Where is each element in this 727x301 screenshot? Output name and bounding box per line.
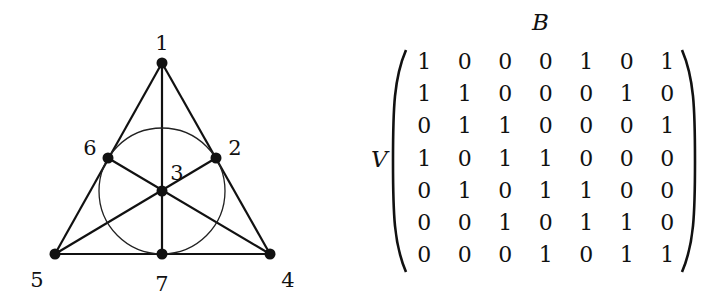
node-5 — [50, 249, 61, 260]
matrix-cell: 1 — [647, 46, 688, 78]
matrix-cell: 0 — [485, 239, 526, 271]
matrix-cell: 0 — [647, 175, 688, 207]
matrix-cell: 1 — [485, 207, 526, 239]
node-label-6: 6 — [83, 136, 96, 160]
matrix-cell: 1 — [404, 46, 445, 78]
matrix-cell: 0 — [404, 239, 445, 271]
matrix-cell: 0 — [485, 78, 526, 110]
matrix-cell: 1 — [445, 175, 486, 207]
node-label-3: 3 — [170, 161, 183, 185]
matrix-cell: 1 — [526, 143, 567, 175]
matrix-cell: 0 — [445, 239, 486, 271]
matrix-cell: 1 — [445, 110, 486, 142]
node-label-1: 1 — [155, 31, 168, 55]
matrix-grid: 1000101110001001100011011000010110000101… — [404, 46, 688, 271]
matrix-cell: 1 — [445, 78, 486, 110]
node-label-2: 2 — [228, 136, 241, 160]
node-7 — [157, 249, 168, 260]
node-4 — [265, 249, 276, 260]
matrix-cell: 0 — [607, 175, 648, 207]
node-2 — [211, 153, 222, 164]
matrix-cell: 1 — [566, 46, 607, 78]
node-1 — [157, 58, 168, 69]
matrix-cell: 1 — [485, 110, 526, 142]
matrix-cell: 1 — [566, 207, 607, 239]
matrix-cell: 0 — [526, 110, 567, 142]
matrix-cell: 0 — [647, 143, 688, 175]
matrix-cell: 0 — [404, 175, 445, 207]
matrix-cell: 0 — [607, 110, 648, 142]
matrix-cell: 1 — [647, 110, 688, 142]
matrix-cell: 1 — [404, 143, 445, 175]
matrix-cell: 1 — [647, 239, 688, 271]
node-label-7: 7 — [155, 272, 168, 296]
row-label: V — [371, 146, 388, 172]
matrix-cell: 0 — [526, 207, 567, 239]
matrix-cell: 0 — [404, 110, 445, 142]
matrix-cell: 1 — [404, 78, 445, 110]
matrix-cell: 0 — [566, 239, 607, 271]
node-label-4: 4 — [281, 268, 294, 292]
matrix-cell: 1 — [607, 207, 648, 239]
line-6-3-4 — [108, 158, 270, 254]
node-6 — [103, 153, 114, 164]
matrix-cell: 1 — [485, 143, 526, 175]
matrix-cell: 0 — [404, 207, 445, 239]
matrix-cell: 0 — [647, 207, 688, 239]
matrix-cell: 0 — [445, 207, 486, 239]
matrix-cell: 0 — [485, 175, 526, 207]
matrix-cell: 0 — [647, 78, 688, 110]
fano-plane-diagram: 1234567 — [0, 0, 340, 301]
matrix-cell: 0 — [566, 78, 607, 110]
matrix-cell: 0 — [566, 143, 607, 175]
matrix-cell: 0 — [526, 78, 567, 110]
matrix-cell: 1 — [607, 78, 648, 110]
matrix-cell: 0 — [445, 46, 486, 78]
node-label-5: 5 — [30, 268, 43, 292]
matrix-cell: 0 — [607, 46, 648, 78]
matrix-cell: 1 — [566, 175, 607, 207]
matrix-cell: 0 — [607, 143, 648, 175]
line-2-3-5 — [55, 158, 216, 254]
matrix-cell: 0 — [526, 46, 567, 78]
matrix-cell: 1 — [607, 239, 648, 271]
matrix-cell: 0 — [485, 46, 526, 78]
matrix-cell: 0 — [566, 110, 607, 142]
node-3 — [157, 186, 168, 197]
matrix-cell: 1 — [526, 175, 567, 207]
matrix-cell: 1 — [526, 239, 567, 271]
incidence-matrix: B V 100010111000100110001101100001011000… — [360, 0, 727, 301]
column-label: B — [532, 9, 549, 35]
matrix-cell: 0 — [445, 143, 486, 175]
